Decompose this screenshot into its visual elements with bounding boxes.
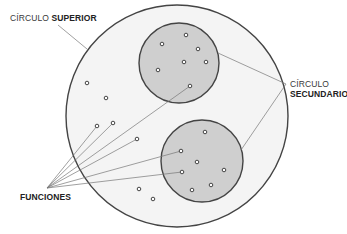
diagram-canvas: CÍRCULO SUPERIOR CÍRCULO SECUNDARIO FUNC… <box>0 0 347 234</box>
label-superior-bold: SUPERIOR <box>51 13 96 23</box>
label-secundario-line1: CÍRCULO <box>290 79 347 89</box>
label-superior-prefix: CÍRCULO <box>10 13 49 23</box>
label-secundario-line2: SECUNDARIO <box>290 89 347 99</box>
label-circulo-secundario: CÍRCULO SECUNDARIO <box>290 79 347 99</box>
label-circulo-superior: CÍRCULO SUPERIOR <box>10 13 97 23</box>
secondary-circle-lower <box>161 120 243 202</box>
label-funciones: FUNCIONES <box>20 192 71 202</box>
leader-superior <box>58 25 87 49</box>
